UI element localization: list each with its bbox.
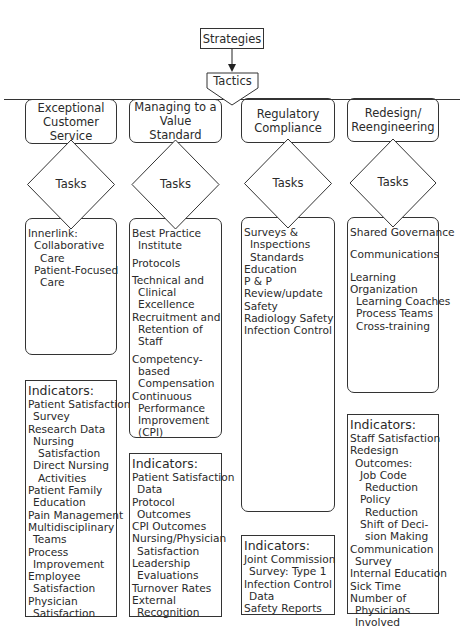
tasks-diamond-label: Tasks <box>146 177 206 191</box>
diagram-connectors <box>0 0 464 640</box>
tasks-diamond-label: Tasks <box>258 176 318 190</box>
tasks-diamond-label: Tasks <box>363 175 423 189</box>
strategies-box: Strategies <box>200 28 264 49</box>
strategies-label: Strategies <box>203 32 262 46</box>
arrow-head-icon <box>228 64 236 72</box>
tasks-diamond-label: Tasks <box>41 177 101 191</box>
tactics-label: Tactics <box>207 74 258 88</box>
